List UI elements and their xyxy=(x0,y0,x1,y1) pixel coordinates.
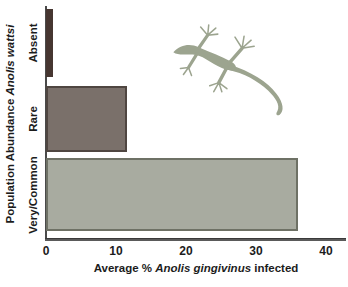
y-tick-label-absent: Absent xyxy=(27,24,39,63)
y-tick-label-very-common: Very/Common xyxy=(27,156,39,233)
y-tick-label-rare: Rare xyxy=(27,106,39,132)
x-axis-title-suffix-text: infected xyxy=(254,262,298,274)
bar-rare xyxy=(46,86,127,152)
bar-very-common xyxy=(46,158,298,231)
x-tick-label-10: 10 xyxy=(109,244,122,258)
anole-lizard-icon xyxy=(170,22,302,118)
x-axis-title: Average % Anolis gingivinus infected xyxy=(94,262,299,274)
y-axis-title: Population Abundance Anolis wattsi xyxy=(4,25,16,224)
x-axis-line xyxy=(45,238,346,241)
x-axis-title-prefix: Average % xyxy=(94,262,156,274)
x-tick-label-20: 20 xyxy=(179,244,192,258)
x-axis-title-species: Anolis gingivinus xyxy=(155,262,251,274)
y-axis-title-species: Anolis wattsi xyxy=(4,25,16,96)
bar-absent xyxy=(46,9,53,77)
y-axis-title-text: Population Abundance xyxy=(4,95,16,223)
x-tick-label-30: 30 xyxy=(249,244,262,258)
x-tick-label-40: 40 xyxy=(319,244,332,258)
bar-chart-figure: Population Abundance Anolis wattsi Absen… xyxy=(0,0,348,287)
x-tick-label-0: 0 xyxy=(43,244,50,258)
